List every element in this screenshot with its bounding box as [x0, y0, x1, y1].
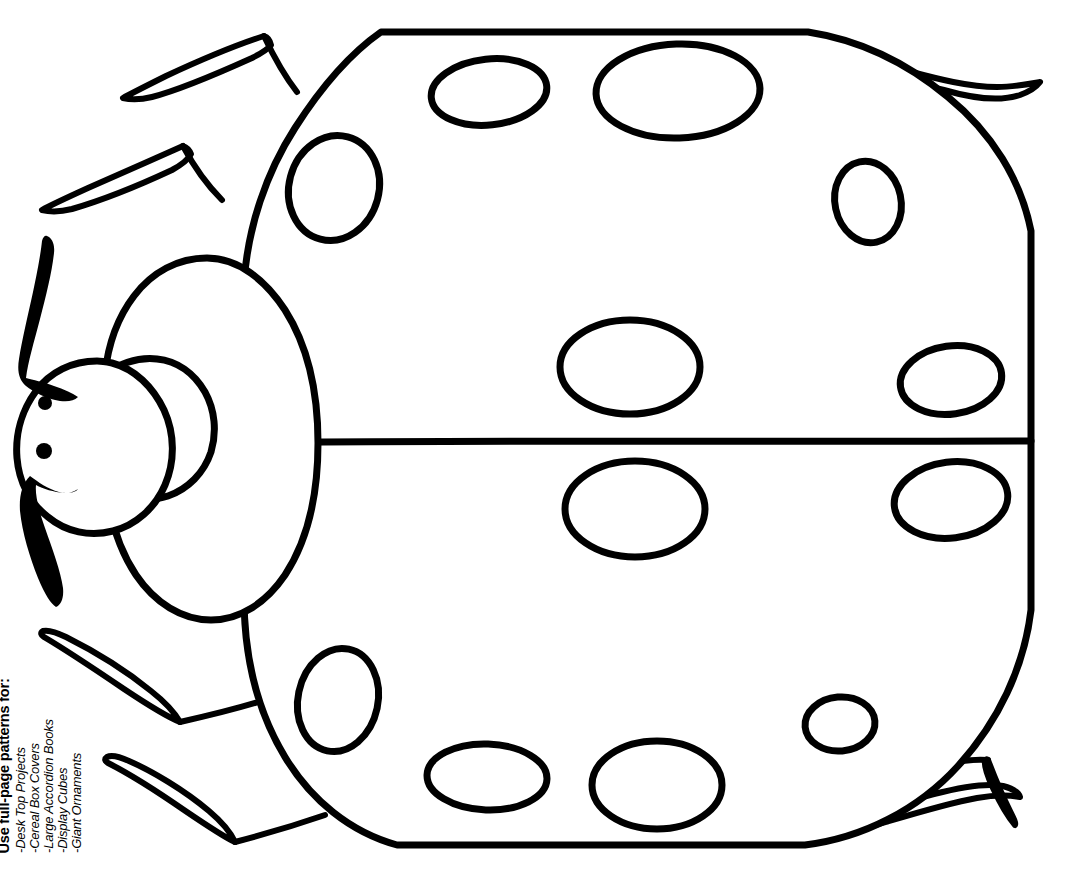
- spot-2: [594, 41, 761, 141]
- spot-5: [560, 320, 700, 414]
- spot-10: [803, 694, 877, 754]
- wing-split-line: [246, 441, 1031, 443]
- spot-12: [592, 741, 722, 829]
- spot-11: [426, 742, 548, 812]
- ladybug-illustration: [0, 0, 1074, 875]
- eye-lower-dot: [36, 443, 52, 459]
- spot-7: [565, 461, 705, 557]
- pattern-page: Use full-page patterns for: -Desk Top Pr…: [0, 0, 1074, 875]
